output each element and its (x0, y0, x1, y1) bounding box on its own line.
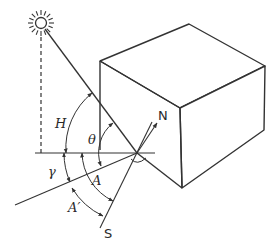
altitude-label: H (54, 116, 67, 131)
incidence-arc (99, 123, 113, 166)
north-label: N (158, 108, 168, 123)
solar-azimuth-prime-label: A′ (67, 200, 80, 215)
solar-azimuth-label: A (91, 173, 101, 188)
incidence-label: θ (88, 132, 96, 147)
azimuth-line (15, 153, 137, 205)
south-label: S (104, 226, 112, 241)
wall-azimuth-arc (64, 153, 70, 182)
sun-icon (28, 10, 54, 36)
building-box (100, 24, 265, 188)
solar-angle-diagram: N S H θ γ A A′ (0, 0, 272, 241)
north-arrow (137, 123, 157, 153)
wall-azimuth-label: γ (48, 164, 56, 179)
